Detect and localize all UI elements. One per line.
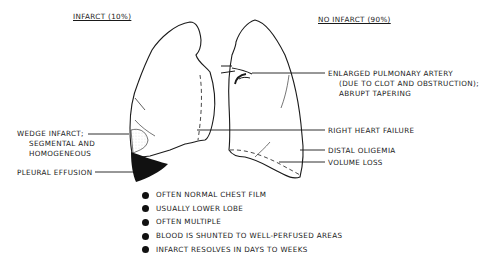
wedge-infarct-label-2: SEGMENTAL AND xyxy=(29,139,95,148)
volume-loss-label: VOLUME LOSS xyxy=(328,158,383,167)
enlarged-artery-label-2: (DUE TO CLOT AND OBSTRUCTION); xyxy=(339,79,479,88)
bullet-icon xyxy=(142,192,149,199)
distal-oligemia-label: DISTAL OLIGEMIA xyxy=(328,146,396,155)
right-heart-failure-label: RIGHT HEART FAILURE xyxy=(328,126,414,135)
enlarged-artery-label-3: ABRUPT TAPERING xyxy=(339,89,411,98)
wedge-infarct-region xyxy=(131,129,148,153)
leader-lines xyxy=(88,73,325,172)
no-infarct-header: NO INFARCT (90%) xyxy=(318,15,391,24)
findings-list: OFTEN NORMAL CHEST FILM USUALLY LOWER LO… xyxy=(142,188,342,257)
right-lung-no-infarct xyxy=(229,20,303,178)
list-item: OFTEN MULTIPLE xyxy=(142,215,342,229)
infarct-header: INFARCT (10%) xyxy=(73,12,131,21)
pulmonary-artery-icon xyxy=(221,66,252,84)
wedge-infarct-label: WEDGE INFARCT; xyxy=(17,129,84,138)
bullet-icon xyxy=(142,219,149,226)
list-item: INFARCT RESOLVES IN DAYS TO WEEKS xyxy=(142,243,342,257)
bullet-icon xyxy=(142,233,149,240)
wedge-infarct-label-3: HOMOGENEOUS xyxy=(29,149,91,158)
pleural-effusion-label: PLEURAL EFFUSION xyxy=(17,168,92,177)
bullet-icon xyxy=(142,246,149,253)
bullet-icon xyxy=(142,205,149,212)
list-item: USUALLY LOWER LOBE xyxy=(142,202,342,216)
list-item: OFTEN NORMAL CHEST FILM xyxy=(142,188,342,202)
list-item: BLOOD IS SHUNTED TO WELL-PERFUSED AREAS xyxy=(142,229,342,243)
enlarged-artery-label: ENLARGED PULMONARY ARTERY xyxy=(328,69,453,78)
